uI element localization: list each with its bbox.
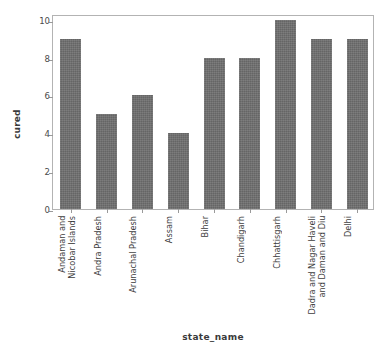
x-tick-label: Dadra and Nagar Haveli and Daman and Diu [308,216,332,314]
x-tick-mark [321,209,322,213]
x-tick-mark [250,209,251,213]
bar [96,114,117,209]
bar [311,39,332,209]
bar [275,20,296,209]
x-tick-label: Assam [165,216,189,243]
x-tick-label: Andaman and Nicobar Islands [58,216,82,279]
plot-frame: 0246810 [52,15,374,210]
x-tick-mark [71,209,72,213]
y-tick-label: 6 [45,91,50,101]
bar [204,58,225,209]
y-axis-title: cured [8,94,26,154]
bar [168,133,189,209]
x-axis-title: state_name [52,332,374,342]
plot-area: 0246810 [53,16,373,209]
x-tick-label: Arunachal Pradesh [129,216,153,293]
bar [239,58,260,209]
y-tick-label: 0 [45,205,50,215]
x-tick-label: Chandigarh [237,216,261,263]
bar [347,39,368,209]
bar [132,95,153,209]
y-tick-label: 4 [45,129,50,139]
x-tick-mark [286,209,287,213]
x-tick-label: Delhi [344,216,368,237]
bar [60,39,81,209]
y-tick-label: 8 [45,54,50,64]
x-tick-label: Bihar [201,216,225,237]
x-tick-mark [357,209,358,213]
y-tick-label: 2 [45,167,50,177]
bar-chart-figure: cured 0246810 Andaman and Nicobar Island… [0,0,391,356]
x-tick-label: Andra Pradesh [94,216,118,276]
x-tick-label: Chhattisgarh [273,216,297,269]
x-tick-mark [214,209,215,213]
x-tick-mark [178,209,179,213]
x-tick-mark [142,209,143,213]
y-tick-label: 10 [39,16,50,26]
x-tick-mark [107,209,108,213]
